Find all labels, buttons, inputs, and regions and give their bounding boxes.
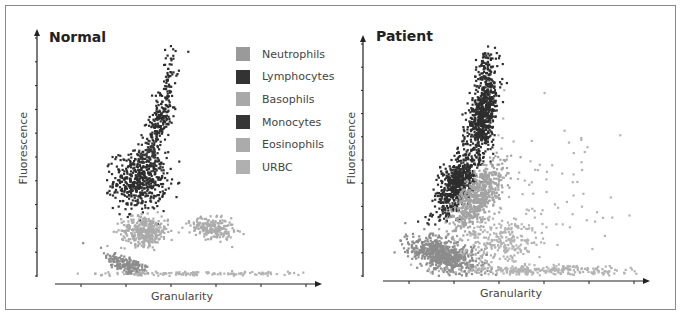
y-arrow-icon	[360, 35, 366, 42]
x-arrow-icon	[643, 278, 650, 284]
panel-patient: Patient Fluorescence Granularity	[0, 0, 682, 324]
y-axis-label: Fluorescence	[345, 115, 358, 185]
data-points	[394, 45, 638, 277]
y-axis	[360, 35, 366, 277]
cropped-caption-strip	[0, 316, 682, 324]
x-axis-label: Granularity	[480, 287, 542, 300]
panel-title: Patient	[376, 28, 433, 44]
scatter-plot-patient	[0, 0, 682, 324]
x-axis	[383, 278, 650, 284]
